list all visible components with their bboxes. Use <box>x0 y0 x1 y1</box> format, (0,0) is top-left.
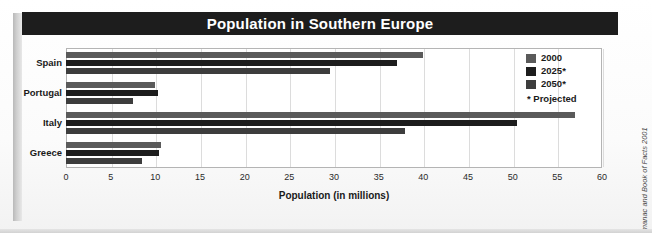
legend-item-2050: 2050* <box>526 78 596 90</box>
chart-legend: 20002025*2050** Projected <box>526 52 596 104</box>
legend-item-2025: 2025* <box>526 65 596 77</box>
bar-italy-2000 <box>66 112 575 118</box>
x-tick-40: 40 <box>418 173 428 182</box>
bar-portugal-2025 <box>66 90 158 96</box>
bar-italy-2050 <box>66 128 405 134</box>
bar-spain-2025 <box>66 60 397 66</box>
page-title: Population in Southern Europe <box>207 16 434 31</box>
source-attribution: Source: The World Almanac and Book of Fa… <box>637 28 651 218</box>
legend-item-2000: 2000 <box>526 52 596 64</box>
legend-projected-note: * Projected <box>526 94 596 104</box>
x-tick-25: 25 <box>284 173 294 182</box>
bar-greece-2025 <box>66 150 159 156</box>
bar-italy-2025 <box>66 120 517 126</box>
legend-label: 2000 <box>541 53 562 63</box>
y-axis-category-labels: SpainPortugalItalyGreece <box>0 48 62 168</box>
legend-swatch-icon <box>526 67 536 76</box>
chart-screenshot: Population in Southern Europe SpainPortu… <box>0 0 652 233</box>
legend-label: 2050* <box>541 79 566 89</box>
x-tick-5: 5 <box>108 173 113 182</box>
x-tick-50: 50 <box>508 173 518 182</box>
y-axis-label-italy: Italy <box>0 118 62 128</box>
x-tick-10: 10 <box>150 173 160 182</box>
bar-series-layer <box>66 48 602 168</box>
x-axis-tick-labels: 051015202530354045505560 <box>66 173 602 185</box>
legend-swatch-icon <box>526 80 536 89</box>
x-tick-55: 55 <box>552 173 562 182</box>
legend-swatch-icon <box>526 54 536 63</box>
x-axis-title: Population (in millions) <box>66 190 602 201</box>
bar-portugal-2000 <box>66 82 155 88</box>
bottom-edge-decoration <box>0 229 652 233</box>
bar-greece-2050 <box>66 158 142 164</box>
x-tick-35: 35 <box>374 173 384 182</box>
x-tick-20: 20 <box>240 173 250 182</box>
y-axis-label-spain: Spain <box>0 58 62 68</box>
x-tick-30: 30 <box>329 173 339 182</box>
y-axis-label-portugal: Portugal <box>0 88 62 98</box>
x-tick-0: 0 <box>63 173 68 182</box>
x-tick-15: 15 <box>195 173 205 182</box>
legend-label: 2025* <box>541 66 566 76</box>
source-text: Source: The World Almanac and Book of Fa… <box>640 127 648 233</box>
bar-spain-2050 <box>66 68 330 74</box>
bar-greece-2000 <box>66 142 161 148</box>
y-axis-label-greece: Greece <box>0 148 62 158</box>
x-tick-45: 45 <box>463 173 473 182</box>
x-tick-60: 60 <box>597 173 607 182</box>
bar-portugal-2050 <box>66 98 133 104</box>
bar-spain-2000 <box>66 52 423 58</box>
gridline <box>603 49 604 167</box>
chart-title-bar: Population in Southern Europe <box>22 12 618 35</box>
